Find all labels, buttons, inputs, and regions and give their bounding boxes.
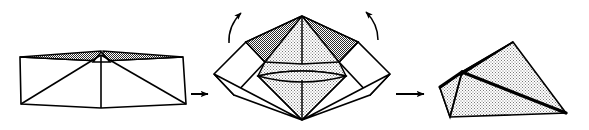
figure-canvas — [0, 0, 589, 130]
folding-sequence-figure — [0, 0, 589, 130]
stage-1-flat-net — [20, 51, 186, 108]
net-base-panel — [20, 57, 186, 108]
